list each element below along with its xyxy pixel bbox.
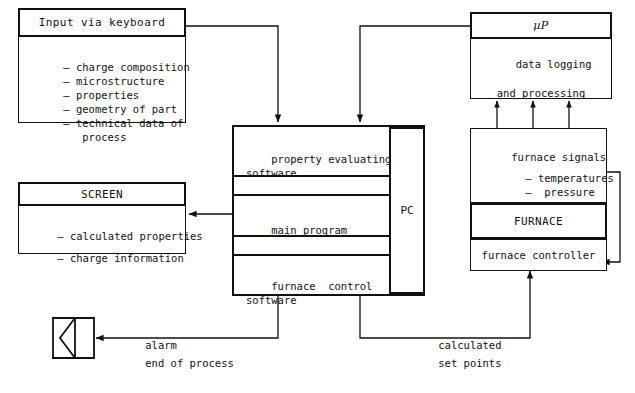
setpoints-sublabel: set points <box>438 357 501 369</box>
alarm-horn-svg <box>0 0 635 393</box>
alarm-line-2: end of process <box>120 342 234 384</box>
alarm-sublabel: end of process <box>145 357 234 369</box>
setpoints-line-2: set points <box>413 342 502 384</box>
diagram-canvas: Input via keyboard – charge composition … <box>0 0 635 393</box>
horn-speaker-icon <box>53 318 94 358</box>
